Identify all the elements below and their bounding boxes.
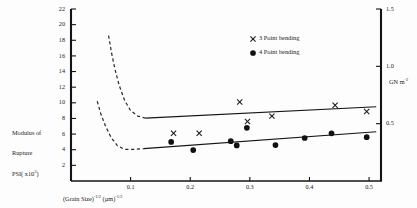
x-tick-label: 0.3 bbox=[238, 184, 262, 191]
legend-markers bbox=[250, 36, 256, 55]
data-point-marker bbox=[269, 114, 274, 119]
y-tick-label: 6 bbox=[49, 131, 65, 138]
data-point-marker bbox=[332, 103, 337, 108]
x-axis-label: (Grain Size)-1/2 (µm)-1/2 bbox=[63, 195, 122, 203]
trend-line-series-1 bbox=[144, 132, 377, 149]
y-tick-label: 2 bbox=[49, 162, 65, 169]
axis-spines bbox=[71, 9, 382, 181]
data-point-marker bbox=[237, 99, 242, 104]
x-tick-label: 0.2 bbox=[178, 184, 202, 191]
right-tick-label: 1.5 bbox=[386, 6, 406, 13]
data-point-marker bbox=[171, 131, 176, 136]
data-point-marker bbox=[302, 135, 308, 141]
legend-marker-circle bbox=[250, 50, 256, 56]
y-axis-label: Modulus of Rupture PSI( x103) bbox=[12, 117, 41, 191]
data-point-marker bbox=[245, 119, 250, 124]
data-point-marker bbox=[197, 131, 202, 136]
y-tick-label: 20 bbox=[49, 21, 65, 28]
y-tick-label: 18 bbox=[49, 37, 65, 44]
y-tick-label: 4 bbox=[49, 146, 65, 153]
right-tick-label: 0.5 bbox=[386, 120, 406, 127]
data-point-marker bbox=[190, 147, 196, 153]
x-tick-label: 0.4 bbox=[297, 184, 321, 191]
lower-bound-curve bbox=[97, 101, 143, 149]
data-point-marker bbox=[364, 134, 370, 140]
x-tick-label: 0.1 bbox=[119, 184, 143, 191]
y-tick-label: 16 bbox=[49, 53, 65, 60]
right-tick-label: 1.0 bbox=[386, 63, 406, 70]
data-point-marker bbox=[228, 138, 234, 144]
trend-line-series-0 bbox=[146, 107, 377, 118]
chart-figure: Modulus of Rupture PSI( x103) (Grain Siz… bbox=[0, 0, 417, 208]
right-axis-label: GN m-2 bbox=[389, 78, 408, 86]
upper-bound-curve bbox=[109, 36, 146, 118]
legend-label: 4 Point bending bbox=[259, 49, 299, 56]
legend-marker-x bbox=[250, 36, 255, 41]
trend-lines bbox=[144, 107, 377, 149]
y-tick-label: 8 bbox=[49, 115, 65, 122]
y-axis-label-line2: Rupture bbox=[12, 150, 41, 157]
y-tick-label: 12 bbox=[49, 84, 65, 91]
y-tick-label: 10 bbox=[49, 99, 65, 106]
data-point-marker bbox=[234, 143, 240, 149]
y-axis-label-line1: Modulus of bbox=[12, 130, 41, 137]
x-tick-label: 0.5 bbox=[357, 184, 381, 191]
data-point-marker bbox=[168, 139, 174, 145]
data-point-marker bbox=[244, 125, 250, 131]
data-point-marker bbox=[329, 130, 335, 136]
legend-label: 3 Point bending bbox=[259, 35, 299, 42]
y-axis-label-line3: PSI( x103) bbox=[12, 170, 41, 178]
y-tick-label: 14 bbox=[49, 68, 65, 75]
data-point-marker bbox=[273, 142, 279, 148]
data-point-marker bbox=[364, 109, 369, 114]
y-tick-label: 22 bbox=[49, 6, 65, 13]
dashed-bound-curves bbox=[97, 36, 145, 150]
